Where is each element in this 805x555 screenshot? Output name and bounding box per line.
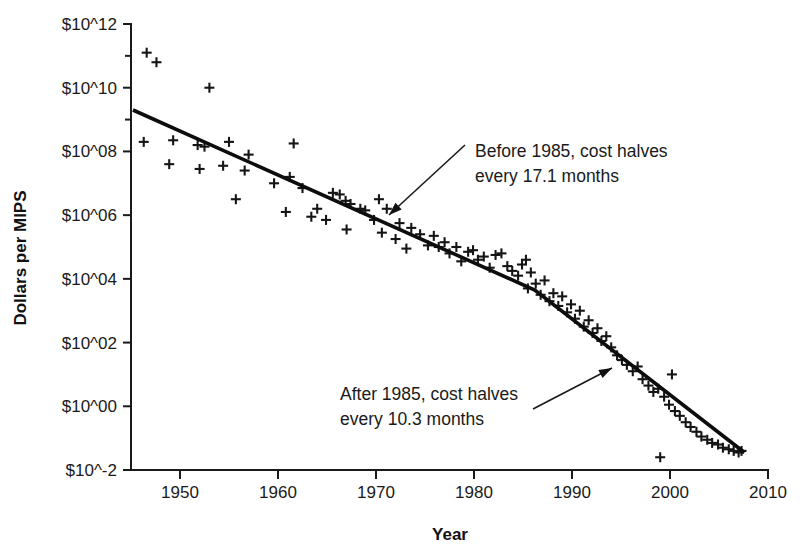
x-axis-tick-label: 1990 xyxy=(553,483,591,502)
y-axis-tick-label: $10^08 xyxy=(62,142,117,161)
chart-container: $10^12$10^10$10^08$10^06$10^04$10^02$10^… xyxy=(0,0,805,555)
annotation-text-line: every 17.1 months xyxy=(475,166,619,186)
y-axis-tick-label: $10^-2 xyxy=(66,461,117,480)
y-axis-tick-label: $10^12 xyxy=(62,15,117,34)
annotation-text-line: After 1985, cost halves xyxy=(340,384,518,404)
chart-background xyxy=(0,0,805,555)
cost-per-mips-scatter-chart: $10^12$10^10$10^08$10^06$10^04$10^02$10^… xyxy=(0,0,805,555)
x-axis-title: Year xyxy=(432,525,468,544)
x-axis-tick-label: 1980 xyxy=(455,483,493,502)
x-axis-tick-label: 1970 xyxy=(357,483,395,502)
annotation-text-line: every 10.3 months xyxy=(340,409,484,429)
x-axis-tick-label: 1950 xyxy=(161,483,199,502)
y-axis-tick-label: $10^02 xyxy=(62,334,117,353)
x-axis-tick-label: 2000 xyxy=(651,483,689,502)
x-axis-tick-label: 2010 xyxy=(749,483,787,502)
y-axis-tick-label: $10^06 xyxy=(62,206,117,225)
x-axis-tick-label: 1960 xyxy=(259,483,297,502)
annotation-text-line: Before 1985, cost halves xyxy=(475,141,668,161)
y-axis-tick-label: $10^10 xyxy=(62,79,117,98)
y-axis-tick-label: $10^00 xyxy=(62,397,117,416)
y-axis-tick-label: $10^04 xyxy=(62,270,117,289)
y-axis-title: Dollars per MIPS xyxy=(11,190,30,325)
